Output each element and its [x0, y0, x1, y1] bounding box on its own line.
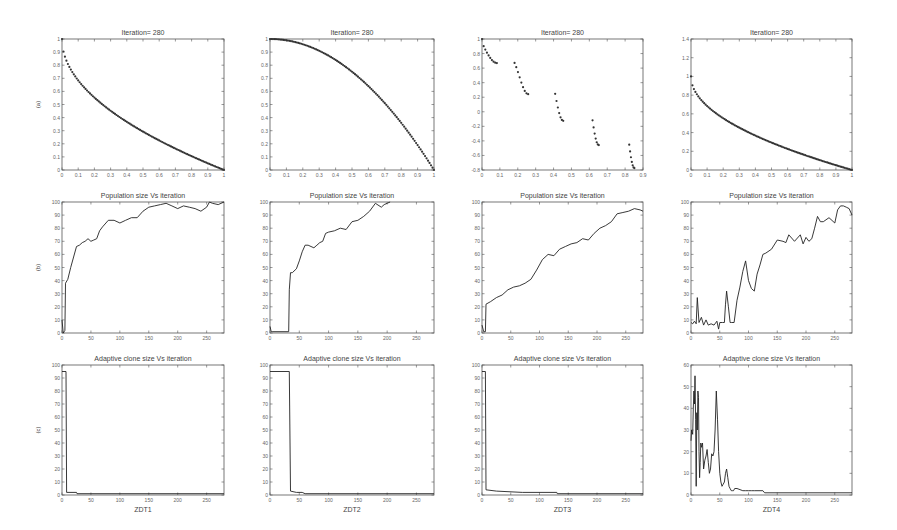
x-tick-label: 50	[508, 497, 514, 503]
subplot-title: Adaptive clone size Vs iteration	[723, 355, 820, 363]
y-tick-label: 30	[54, 291, 60, 297]
y-tick-label: 80	[262, 225, 268, 231]
x-axis-label: ZDT1	[134, 506, 152, 513]
x-tick-label: 0.1	[704, 172, 711, 178]
x-tick-label: 0.6	[365, 172, 372, 178]
y-tick-label: 90	[683, 212, 689, 218]
y-axis-label: (a)	[35, 101, 41, 108]
subplot-title: Population size Vs iteration	[520, 192, 605, 200]
x-tick-label: 100	[535, 335, 544, 341]
x-tick-label: 0.3	[736, 172, 743, 178]
series-line	[482, 372, 643, 494]
series-line	[691, 376, 852, 493]
y-tick-label: 20	[262, 466, 268, 472]
y-tick-label: 10	[54, 479, 60, 485]
x-tick-label: 0.2	[299, 172, 306, 178]
y-tick-label: 0	[477, 109, 480, 115]
y-tick-label: 0.3	[261, 128, 268, 134]
y-tick-label: 80	[262, 388, 268, 394]
x-tick-label: 200	[174, 497, 183, 503]
subplot-zdt3-front: Iteration= 28000.10.20.30.40.50.60.70.80…	[471, 29, 646, 178]
x-tick-label: 0.1	[283, 172, 290, 178]
y-tick-label: -0.2	[471, 123, 480, 129]
y-tick-label: 40	[474, 440, 480, 446]
y-tick-label: 0.7	[261, 75, 268, 81]
y-tick-label: -0.4	[471, 138, 480, 144]
x-tick-label: 50	[717, 497, 723, 503]
x-tick-label: 0	[61, 497, 64, 503]
x-tick-label: 150	[145, 497, 154, 503]
y-tick-label: 50	[474, 265, 480, 271]
x-tick-label: 0.4	[550, 172, 557, 178]
y-tick-label: 100	[52, 199, 61, 205]
subplot-title: Adaptive clone size Vs iteration	[514, 355, 611, 363]
y-tick-label: 100	[681, 199, 690, 205]
y-tick-label: 50	[262, 427, 268, 433]
y-tick-label: 1.2	[682, 55, 689, 61]
subplot-title: Population size Vs iteration	[310, 192, 395, 200]
series-line	[482, 209, 643, 332]
x-tick-label: 0.2	[91, 172, 98, 178]
x-tick-label: 50	[297, 335, 303, 341]
y-tick-label: 60	[262, 414, 268, 420]
y-tick-label: 0.2	[261, 141, 268, 147]
y-tick-label: 0	[686, 492, 689, 498]
x-tick-label: 200	[593, 335, 602, 341]
y-tick-label: 50	[683, 384, 689, 390]
y-tick-label: 0.6	[682, 111, 689, 117]
x-tick-label: 0.8	[188, 172, 195, 178]
y-tick-label: 0.8	[682, 92, 689, 98]
x-tick-label: 0.4	[752, 172, 759, 178]
plot-frame	[482, 202, 643, 333]
x-tick-label: 0	[269, 335, 272, 341]
pareto-front-points	[61, 38, 225, 171]
y-tick-label: 20	[474, 304, 480, 310]
x-tick-label: 100	[744, 497, 753, 503]
y-tick-label: 40	[262, 440, 268, 446]
y-tick-label: 70	[54, 401, 60, 407]
x-tick-label: 250	[202, 497, 211, 503]
y-tick-label: -0.6	[471, 152, 480, 158]
plot-frame	[691, 202, 852, 333]
y-tick-label: 90	[54, 212, 60, 218]
y-tick-label: 80	[474, 388, 480, 394]
y-tick-label: 70	[474, 238, 480, 244]
x-tick-label: 250	[412, 497, 421, 503]
y-tick-label: 80	[54, 388, 60, 394]
plot-frame	[270, 365, 434, 495]
subplot-zdt2-clone-size: Adaptive clone size Vs iteration05010015…	[260, 355, 434, 513]
x-tick-label: 0	[61, 172, 64, 178]
y-tick-label: 1	[477, 36, 480, 42]
y-tick-label: 50	[54, 427, 60, 433]
x-tick-label: 0.3	[532, 172, 539, 178]
y-tick-label: 0	[57, 492, 60, 498]
y-tick-label: 60	[262, 251, 268, 257]
y-tick-label: 40	[54, 440, 60, 446]
y-tick-label: 90	[262, 375, 268, 381]
y-tick-label: 0.2	[682, 148, 689, 154]
y-axis-label: (b)	[35, 264, 41, 271]
y-tick-label: 0.4	[682, 130, 689, 136]
plot-frame	[270, 39, 434, 170]
y-tick-label: 20	[54, 466, 60, 472]
y-tick-label: 40	[262, 278, 268, 284]
plot-frame	[62, 202, 224, 333]
y-tick-label: 30	[54, 453, 60, 459]
x-tick-label: 0.2	[514, 172, 521, 178]
y-tick-label: 0.7	[53, 75, 60, 81]
y-tick-label: 60	[683, 251, 689, 257]
y-tick-label: 0.6	[473, 65, 480, 71]
y-tick-label: 0.4	[473, 80, 480, 86]
x-tick-label: 0.8	[398, 172, 405, 178]
x-tick-label: 250	[622, 497, 631, 503]
x-tick-label: 150	[354, 497, 363, 503]
x-tick-label: 0.5	[349, 172, 356, 178]
x-tick-label: 1	[223, 172, 226, 178]
x-tick-label: 50	[88, 497, 94, 503]
subplot-zdt3-clone-size: Adaptive clone size Vs iteration05010015…	[472, 355, 643, 513]
subplot-title: Iteration= 280	[330, 29, 373, 36]
y-tick-label: 10	[474, 479, 480, 485]
y-tick-label: 90	[54, 375, 60, 381]
plot-frame	[482, 39, 643, 170]
subplot-title: Adaptive clone size Vs iteration	[94, 355, 191, 363]
